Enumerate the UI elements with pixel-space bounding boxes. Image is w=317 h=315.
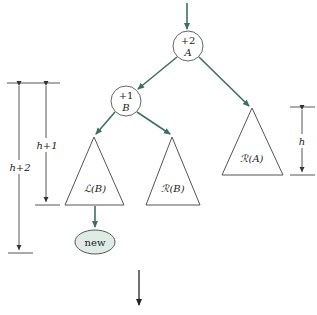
subtree-right-a-label: ℛ(A) <box>240 153 263 164</box>
edge-a-b <box>138 57 177 89</box>
avl-diagram: +2 A +1 B ℒ(B) ℛ(B) ℛ(A) new h+2 h+1 <box>0 0 317 315</box>
node-a-label: A <box>183 47 191 58</box>
edge-b-lb <box>96 112 115 134</box>
dimension-h-plus-2-label: h+2 <box>9 162 30 173</box>
dimension-h: h <box>290 107 315 175</box>
subtree-left-b: ℒ(B) <box>65 137 124 205</box>
subtree-right-b-label: ℛ(B) <box>161 183 184 194</box>
new-node: new <box>75 230 115 254</box>
subtree-left-b-label: ℒ(B) <box>84 183 106 194</box>
dimension-h-label: h <box>299 136 305 147</box>
dimension-h-plus-2: h+2 <box>7 83 60 253</box>
dimension-h-plus-1: h+1 <box>35 86 60 205</box>
subtree-right-b: ℛ(B) <box>146 137 200 205</box>
edge-b-rb <box>137 112 170 134</box>
node-a-balance: +2 <box>181 35 196 46</box>
node-b-label: B <box>121 102 129 113</box>
node-a: +2 A <box>173 31 203 61</box>
node-b: +1 B <box>111 86 141 116</box>
dimension-h-plus-1-label: h+1 <box>36 140 57 151</box>
subtree-right-a: ℛ(A) <box>222 108 283 175</box>
new-node-label: new <box>85 237 106 248</box>
edge-a-ra <box>199 57 249 106</box>
node-b-balance: +1 <box>119 90 134 101</box>
